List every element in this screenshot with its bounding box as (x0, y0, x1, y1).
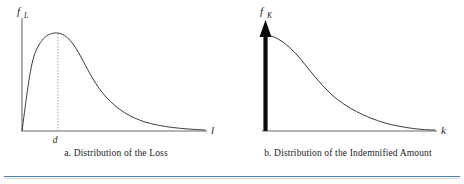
footer-divider-shadow (4, 178, 460, 179)
point-mass-arrow-head (260, 20, 272, 37)
indemnified-amount-plot: f K k (232, 0, 464, 148)
indemnified-density-curve (266, 35, 435, 130)
footer-divider (4, 176, 460, 177)
panel-distribution-of-loss: f L l d a. Distribution of the Loss (0, 0, 232, 170)
panel-a-caption: a. Distribution of the Loss (0, 148, 232, 158)
y-axis-label-subscript-a: L (23, 11, 28, 20)
loss-distribution-plot: f L l d (0, 0, 232, 148)
y-axis-label-a: f (17, 5, 22, 17)
y-axis-label-b: f (260, 5, 265, 17)
y-axis-label-subscript-b: K (266, 11, 273, 20)
figure-container: f L l d a. Distribution of the Loss f K … (0, 0, 464, 184)
panel-b-caption: b. Distribution of the Indemnified Amoun… (232, 148, 464, 158)
panel-distribution-of-indemnified-amount: f K k b. Distribution of the Indemnified… (232, 0, 464, 170)
x-axis-label-a: l (211, 124, 214, 136)
deductible-tick-label: d (53, 135, 58, 145)
x-axis-label-b: k (441, 124, 447, 136)
loss-density-curve (22, 33, 205, 131)
